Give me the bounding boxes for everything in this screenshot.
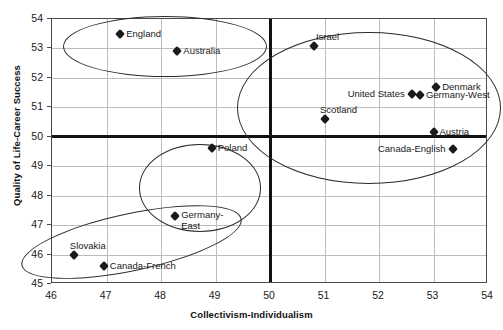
y-axis-tick-label: 46 [9, 249, 43, 259]
scatter-chart: Quality of Life-Career Success 454647484… [0, 0, 503, 330]
data-point-marker[interactable] [115, 29, 125, 39]
data-point-label: Germany- East [181, 210, 223, 231]
x-axis-tick-label: 53 [413, 290, 453, 300]
y-axis-tick-label: 52 [9, 72, 43, 82]
plot-area: EnglandAustraliaIsraelDenmarkUnited Stat… [51, 18, 487, 283]
data-point-label: Australia [183, 46, 220, 56]
slavic-french-cluster [16, 191, 249, 295]
data-point-label: Poland [218, 143, 248, 153]
y-axis-tick-label: 51 [9, 101, 43, 111]
data-point-label: United States [348, 89, 405, 99]
x-axis-tick-label: 50 [249, 290, 289, 300]
gridline-vertical [161, 19, 162, 282]
data-point-label: England [126, 29, 161, 39]
x-axis-tick-label: 54 [467, 290, 503, 300]
data-point-marker[interactable] [448, 144, 458, 154]
y-axis-tick-label: 45 [9, 278, 43, 288]
x-axis-tick-label: 51 [304, 290, 344, 300]
data-point-marker[interactable] [320, 114, 330, 124]
english-speaking-cluster [63, 16, 267, 77]
data-point-label: Germany-West [426, 90, 490, 100]
data-point-label: Israel [316, 32, 339, 42]
data-point-label: Scotland [320, 105, 357, 115]
y-axis-tick-mark [47, 283, 51, 284]
x-axis-tick-label: 48 [140, 290, 180, 300]
y-axis-tick-label: 48 [9, 190, 43, 200]
data-point-marker[interactable] [415, 90, 425, 100]
data-point-label: Slovakia [70, 241, 106, 251]
gridline-vertical [325, 19, 326, 282]
x-axis-tick-label: 46 [31, 290, 71, 300]
x-axis-tick-label: 52 [358, 290, 398, 300]
data-point-label: Canada-English [378, 144, 446, 154]
gridline-vertical [107, 19, 108, 282]
y-axis-tick-label: 54 [9, 13, 43, 23]
data-point-label: Austria [440, 127, 470, 137]
y-axis-tick-label: 49 [9, 160, 43, 170]
data-point-label: Canada-French [110, 261, 176, 271]
reference-line-horizontal [52, 135, 486, 138]
x-axis-title: Collectivism-Individualism [0, 309, 503, 320]
x-axis-tick-label: 47 [86, 290, 126, 300]
reference-line-vertical [269, 19, 272, 282]
data-point-marker[interactable] [170, 211, 180, 221]
western-individualist-cluster [237, 32, 501, 184]
x-axis-tick-label: 49 [195, 290, 235, 300]
y-axis-tick-label: 50 [9, 131, 43, 141]
y-axis-tick-label: 47 [9, 219, 43, 229]
y-axis-tick-label: 53 [9, 42, 43, 52]
data-point-marker[interactable] [69, 250, 79, 260]
